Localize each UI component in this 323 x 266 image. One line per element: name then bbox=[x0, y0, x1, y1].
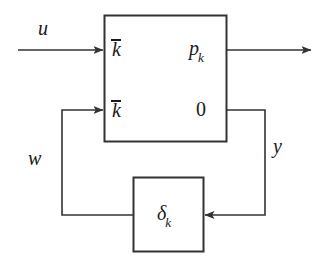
plant-top-right-port-label: pk bbox=[189, 38, 205, 62]
feedback-input-label: w bbox=[28, 148, 41, 168]
uncertainty-block-label: δk bbox=[157, 203, 172, 227]
plant-bottom-right-port-label: 0 bbox=[196, 99, 206, 119]
block-diagram: u w y k pk k 0 δk bbox=[0, 0, 323, 266]
plant-block-rect bbox=[105, 16, 227, 142]
k-bar-bottom-glyph: k bbox=[112, 99, 121, 120]
k-bar-top-glyph: k bbox=[112, 38, 121, 59]
input-signal-label: u bbox=[38, 18, 48, 38]
feedback-output-label: y bbox=[273, 136, 282, 156]
plant-top-left-port-label: k bbox=[112, 38, 121, 59]
plant-bottom-left-port-label: k bbox=[112, 99, 121, 120]
p-subscript-glyph: k bbox=[198, 50, 204, 65]
delta-subscript-glyph: k bbox=[165, 215, 171, 230]
